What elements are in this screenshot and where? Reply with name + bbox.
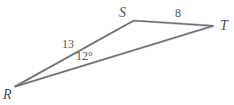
- triangle-edges: [14, 20, 213, 87]
- triangle-diagram: [0, 0, 234, 105]
- figure-canvas: ·· ····· ·· S T R 13 8 12°: [0, 0, 234, 105]
- vertex-label-T: T: [220, 19, 228, 33]
- vertex-label-S: S: [119, 6, 126, 20]
- edge-RT: [15, 25, 214, 87]
- side-length-label-RS: 13: [62, 38, 74, 50]
- edge-RS: [14, 20, 134, 87]
- edge-ST: [134, 20, 213, 27]
- vertex-label-R: R: [3, 88, 12, 102]
- angle-measure-label-R: 12°: [76, 50, 93, 62]
- side-length-label-ST: 8: [175, 7, 181, 19]
